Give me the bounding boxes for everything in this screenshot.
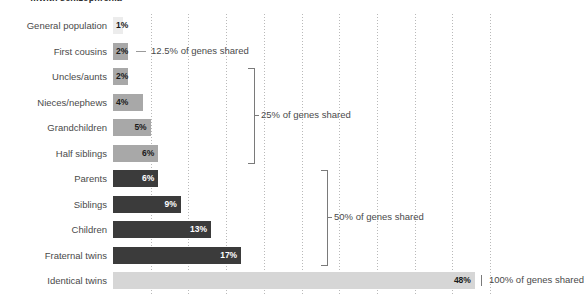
y-axis-label: Grandchildren [47, 116, 107, 139]
annotation-bracket [248, 68, 255, 164]
y-axis-label: Half siblings [56, 142, 107, 165]
annotation-label: 50% of genes shared [334, 211, 424, 222]
annotation-tick [254, 115, 259, 116]
annotation-layer: 12.5% of genes shared25% of genes shared… [113, 14, 490, 295]
y-axis-label: First cousins [54, 40, 107, 63]
annotation-leader [136, 51, 146, 52]
gridline [490, 14, 491, 295]
annotation-label: 12.5% of genes shared [151, 45, 249, 56]
y-axis-labels: General populationFirst cousinsUncles/au… [0, 14, 107, 295]
y-axis-label: General population [27, 14, 107, 37]
y-axis-label: Uncles/aunts [52, 65, 107, 88]
y-axis-label: Nieces/nephews [37, 91, 107, 114]
annotation-label: 25% of genes shared [261, 109, 351, 120]
annotation-label: 100% of genes shared [489, 274, 584, 285]
y-axis-label: Identical twins [47, 269, 107, 292]
y-axis-label: Parents [74, 167, 107, 190]
y-axis-label: Fraternal twins [45, 244, 107, 267]
chart-title: …with schizophrenia [30, 0, 122, 3]
y-axis-label: Siblings [74, 193, 107, 216]
y-axis-label: Children [72, 218, 107, 241]
annotation-bracket [321, 170, 328, 266]
annotation-tick [327, 217, 332, 218]
annotation-tick [481, 275, 482, 286]
